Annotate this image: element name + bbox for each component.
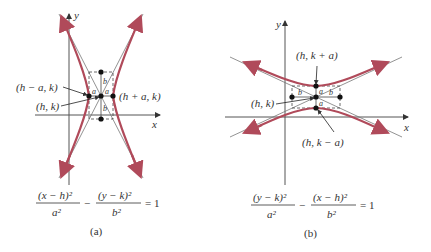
panel-b-a-top-text: a — [319, 87, 323, 96]
panel-b-x-label: x — [403, 121, 409, 133]
panel-a-right-branch-lower-arrow — [132, 155, 140, 175]
panel-b-top-vertex-point — [313, 83, 318, 88]
panel-a-eq-minus: − — [84, 197, 90, 209]
panel-a-center-label: (h, k) — [36, 100, 60, 113]
panel-a-left-vertex-leader — [63, 87, 87, 95]
panel-a-left-vertex-point — [86, 93, 91, 98]
panel-a-eq-term1-den: a² — [52, 206, 62, 218]
panel-b-upper-branch-left-arrow — [246, 63, 262, 70]
panel-a-caption: (a) — [90, 225, 103, 238]
panel-b-equation: (y − k)² a² − (x − h)² b² = 1 — [251, 191, 374, 220]
panel-a-eq-term2-den: b² — [112, 206, 122, 218]
panel-a-equation: (x − h)² a² − (y − k)² b² = 1 — [36, 189, 159, 218]
panel-b-bottom-vertex-point — [313, 105, 318, 110]
panel-b-eq-term2-num: (x − h)² — [313, 191, 348, 204]
panel-a-eq-rhs: = 1 — [145, 197, 159, 209]
panel-a-eq-term2-num: (y − k)² — [98, 189, 132, 202]
panel-b-eq-term1-den: a² — [267, 208, 277, 220]
panel-a-center-point — [98, 93, 103, 98]
panel-a-a-left-text: a — [92, 87, 96, 96]
panel-a-x-label: x — [151, 118, 157, 130]
panel-a-top-covertex-point — [98, 69, 103, 74]
panel-a-b-bottom-text: b — [103, 104, 107, 113]
panel-b-top-vertex-label: (h, k + a) — [296, 49, 338, 62]
panel-b-b-left-text: b — [298, 88, 302, 97]
panel-b: y x a a b b (h, k + a) (h, k) (h, k − a) — [225, 18, 409, 240]
panel-a-left-vertex-label: (h − a, k) — [16, 81, 58, 94]
panel-b-right-covertex-point — [337, 94, 342, 99]
panel-b-eq-rhs: = 1 — [360, 199, 374, 211]
panel-a-center-leader — [61, 97, 99, 106]
panel-b-eq-term2-den: b² — [327, 208, 337, 220]
panel-b-left-covertex-point — [289, 94, 294, 99]
panel-a-bottom-covertex-point — [98, 116, 103, 121]
panel-b-eq-minus: − — [299, 199, 305, 211]
panel-a-y-label: y — [73, 9, 79, 21]
panel-b-center-point — [313, 94, 318, 99]
hyperbola-figure: y x a a b b (h − a, k) (h, k) (h + a, k) — [0, 0, 431, 252]
panel-b-a-bottom-text: a — [319, 99, 323, 108]
panel-b-eq-term1-num: (y − k)² — [253, 191, 287, 204]
panel-a: y x a a b b (h − a, k) (h, k) (h + a, k) — [16, 9, 161, 238]
panel-a-left-branch — [62, 18, 89, 175]
panel-a-a-right-text: a — [105, 87, 109, 96]
panel-b-caption: (b) — [304, 227, 317, 240]
panel-a-right-vertex-point — [110, 93, 115, 98]
panel-b-center-label: (h, k) — [251, 97, 275, 110]
panel-b-y-label: y — [275, 18, 281, 30]
panel-b-b-right-text: b — [329, 88, 333, 97]
panel-b-bottom-vertex-leader — [318, 110, 334, 132]
panel-b-top-vertex-leader — [316, 66, 317, 84]
panel-b-bottom-vertex-label: (h, k − a) — [302, 136, 344, 149]
panel-a-b-top-text: b — [103, 77, 107, 86]
panel-a-eq-term1-num: (x − h)² — [38, 189, 73, 202]
panel-a-right-vertex-label: (h + a, k) — [119, 90, 161, 103]
